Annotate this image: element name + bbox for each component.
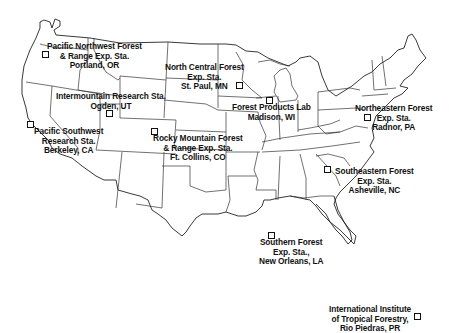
station-label-nc: North Central Forest Exp. Sta. St. Paul,… <box>165 63 244 92</box>
station-label-fpl: Forest Products Lab Madison, WI <box>232 103 311 122</box>
station-label-rm: Rocky Mountain Forest & Range Exp. Sta. … <box>153 134 243 163</box>
station-label-pnw: Pacific Northwest Forest & Range Exp. St… <box>47 42 142 71</box>
station-label-int: Intermountain Research Sta. Ogden, UT <box>56 92 166 111</box>
station-label-so: Southern Forest Exp. Sta., New Orleans, … <box>259 238 323 267</box>
station-label-psw: Pacific Southwest Research Sta. Berkeley… <box>34 127 103 156</box>
station-label-ne: Northeastern Forest Exp. Sta. Radnor, PA <box>355 104 432 133</box>
station-label-iitf: International Institute of Tropical Fore… <box>329 305 411 333</box>
station-marker-se[interactable] <box>324 166 331 173</box>
station-marker-int[interactable] <box>106 110 113 117</box>
station-label-se: Southeastern Forest Exp. Sta. Asheville,… <box>335 167 414 196</box>
station-marker-psw[interactable] <box>27 121 34 128</box>
station-marker-iitf[interactable] <box>414 313 421 320</box>
